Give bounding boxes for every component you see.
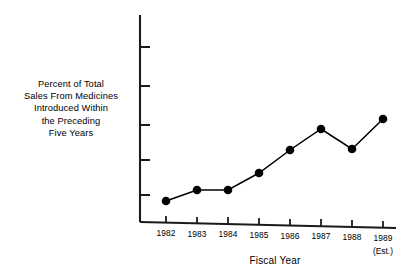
x-tick-label-1985: 1985 (242, 230, 276, 240)
data-point-marker (286, 146, 295, 155)
x-tick-label-1987: 1987 (304, 231, 338, 241)
line-chart-figure: Percent of Total Sales From Medicines In… (0, 0, 415, 280)
x-tick-label-1982: 1982 (149, 228, 183, 238)
data-point-marker (224, 186, 233, 195)
x-tick-label-1983: 1983 (180, 229, 214, 239)
x-tick-sublabel-1989-est: (Est.) (366, 246, 400, 256)
data-point-marker (255, 169, 264, 178)
data-point-marker (193, 186, 202, 195)
x-tick-label-1988: 1988 (335, 232, 369, 242)
x-axis-title: Fiscal Year (205, 255, 345, 266)
data-point-marker (348, 145, 357, 154)
data-point-marker (379, 115, 388, 124)
x-tick-label-1986: 1986 (273, 231, 307, 241)
data-point-marker (162, 197, 171, 206)
x-tick-label-1984: 1984 (211, 229, 245, 239)
x-tick-label-1989: 1989 (366, 233, 400, 243)
data-point-marker (317, 125, 326, 134)
